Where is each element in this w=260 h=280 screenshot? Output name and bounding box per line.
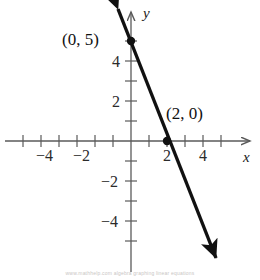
y-tick-label-2: 2 [112, 94, 120, 110]
data-point-marker-0-5 [127, 37, 135, 45]
data-point-marker-2-0 [163, 137, 171, 145]
x-tick-label-4: 4 [199, 148, 207, 164]
x-axis [5, 135, 250, 147]
x-tick-label-neg2: −2 [73, 148, 90, 164]
x-axis-label: x [243, 150, 250, 165]
y-tick-label-neg2: −2 [101, 174, 118, 190]
y-tick-label-neg4: −4 [101, 214, 118, 230]
point-label-0-5: (0, 5) [62, 31, 99, 48]
y-axis-label: y [143, 6, 150, 21]
x-tick-label-2: 2 [163, 148, 171, 164]
y-tick-label-4: 4 [112, 54, 120, 70]
x-tick-label-neg4: −4 [36, 148, 53, 164]
watermark-text: www.mathhelp.com algebra graphing linear… [66, 270, 195, 276]
point-label-2-0: (2, 0) [166, 105, 203, 122]
coordinate-plane [0, 0, 260, 280]
graph-figure: (0, 5) (2, 0) −4 −2 2 4 4 2 −2 −4 y x ww… [0, 0, 260, 280]
